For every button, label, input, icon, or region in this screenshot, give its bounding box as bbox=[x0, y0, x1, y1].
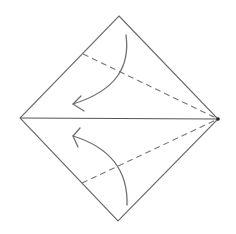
center-crease-line bbox=[20, 118, 218, 119]
lower-fold-arrow-icon bbox=[73, 128, 127, 205]
right-vertex-dot bbox=[216, 117, 220, 121]
upper-fold-arrow-icon bbox=[73, 35, 127, 111]
origami-diagram bbox=[0, 0, 236, 234]
upper-valley-fold-line bbox=[83, 54, 218, 119]
